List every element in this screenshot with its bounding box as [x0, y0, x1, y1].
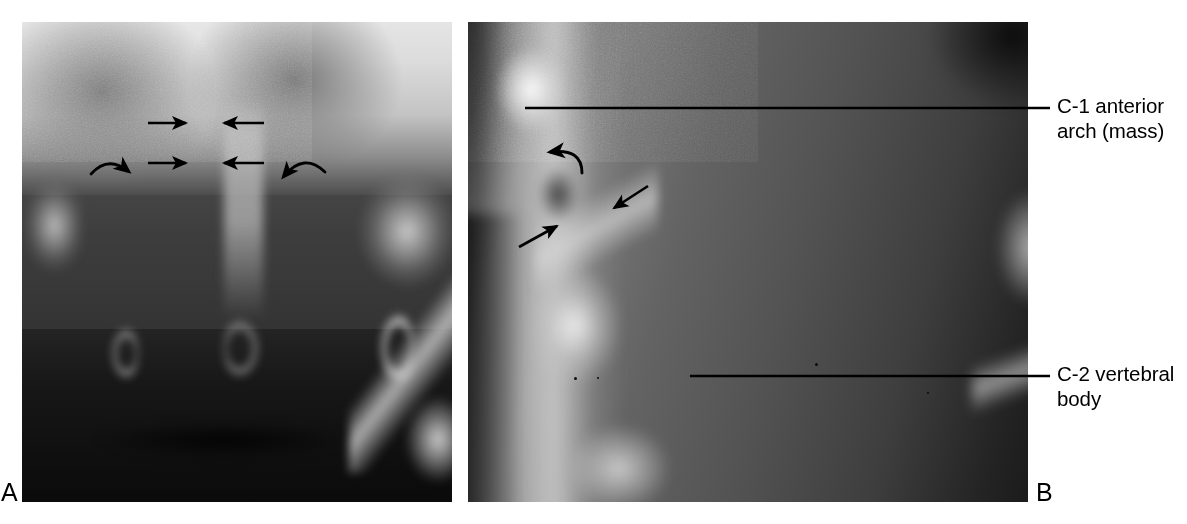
a-bottom-right-glow — [400, 377, 452, 502]
panel-a-image — [22, 22, 452, 502]
b-left-dark-margin — [468, 214, 524, 502]
b-posterior-element-lower — [972, 300, 1028, 444]
panel-b-radiograph — [468, 22, 1028, 502]
a-mid-crescent — [224, 310, 276, 387]
b-lower-bright-region — [546, 406, 692, 502]
panel-a-radiograph — [22, 22, 452, 502]
a-left-crescent — [99, 320, 138, 387]
callout-label-c1-anterior-arch: C-1 anterior arch (mass) — [1057, 93, 1164, 143]
figure-root: C-1 anterior arch (mass) C-2 vertebral b… — [0, 0, 1187, 524]
b-film-speck — [927, 392, 929, 394]
panel-b-image — [468, 22, 1028, 502]
panel-letter-a: A — [1, 478, 18, 507]
b-top-right-dark — [860, 22, 1028, 166]
a-odontoid-process — [224, 99, 263, 320]
b-film-speck — [815, 363, 818, 366]
callout-label-c2-vertebral-body: C-2 vertebral body — [1057, 361, 1174, 411]
b-c2-vertebral-body — [513, 252, 636, 406]
a-dark-band — [48, 416, 401, 464]
b-c1-anterior-arch-mass — [485, 32, 575, 147]
b-notch-shadow — [530, 156, 586, 233]
panel-letter-b: B — [1036, 478, 1053, 507]
a-left-lateral-mass — [22, 176, 82, 301]
